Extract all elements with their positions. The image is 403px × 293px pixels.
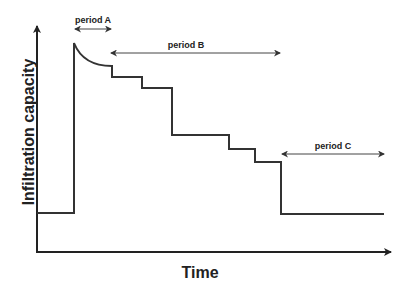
infiltration-diagram: period A period B period C Infiltration … xyxy=(0,0,403,293)
period-b-label: period B xyxy=(168,40,205,50)
x-axis-label: Time xyxy=(181,264,218,282)
period-a-label: period A xyxy=(75,15,111,25)
period-c-label: period C xyxy=(315,141,352,151)
y-axis-label: Infiltration capacity xyxy=(20,59,38,206)
infiltration-profile xyxy=(37,43,384,214)
